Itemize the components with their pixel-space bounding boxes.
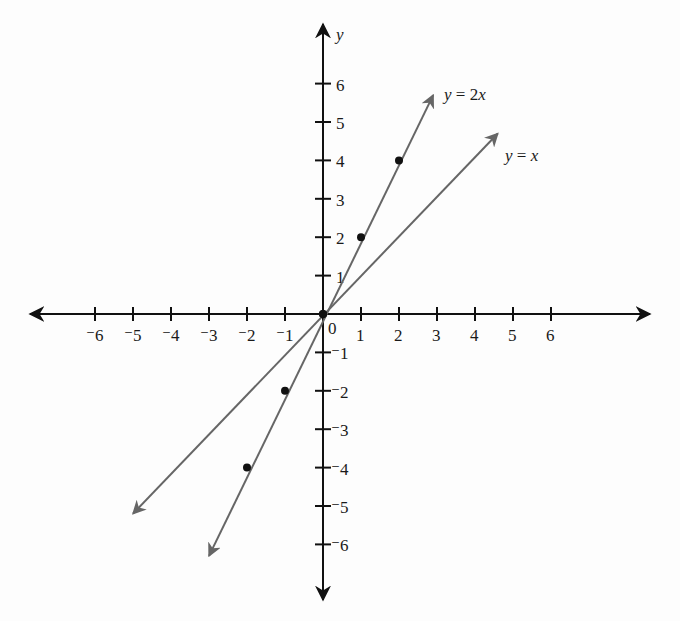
series-line-y-equals-x <box>133 134 498 514</box>
y-tick-label: ⁻5 <box>331 498 349 517</box>
legend-y-equals-2x: y = 2x <box>442 85 486 104</box>
x-tick-label: 4 <box>470 326 479 345</box>
data-point <box>243 464 251 472</box>
x-tick-label: ⁻6 <box>86 326 104 345</box>
y-tick-label: ⁻3 <box>331 421 349 440</box>
data-point <box>319 310 327 318</box>
x-tick-label: 1 <box>356 326 365 345</box>
y-tick-label: ⁻2 <box>331 383 349 402</box>
y-tick-label: 3 <box>336 191 345 210</box>
data-point <box>395 156 403 164</box>
y-tick-label: 2 <box>336 229 345 248</box>
y-tick-label: ⁻6 <box>331 536 349 555</box>
x-tick-label: ⁻3 <box>200 326 218 345</box>
legend-y-equals-x: y = x <box>503 146 539 165</box>
y-tick-label: 5 <box>336 114 345 133</box>
x-tick-label: ⁻4 <box>162 326 180 345</box>
x-tick-label: 2 <box>394 326 403 345</box>
data-point <box>281 387 289 395</box>
y-tick-label: ⁻4 <box>331 460 349 479</box>
coordinate-plane: ⁻6⁻5⁻4⁻3⁻2⁻1123456 ⁻6⁻5⁻4⁻3⁻2⁻1123456 y … <box>0 0 680 621</box>
x-tick-label: 3 <box>432 326 441 345</box>
y-tick-label: 1 <box>336 268 345 287</box>
x-tick-label: ⁻5 <box>124 326 142 345</box>
y-axis-label: y <box>334 25 344 44</box>
y-tick-label: ⁻1 <box>331 344 349 363</box>
x-tick-label: 5 <box>508 326 517 345</box>
x-tick-label: 6 <box>546 326 555 345</box>
y-tick-label: 6 <box>336 76 345 95</box>
origin-label: 0 <box>328 319 337 338</box>
x-tick-label: ⁻1 <box>276 326 294 345</box>
y-tick-label: 4 <box>336 152 345 171</box>
data-point <box>357 233 365 241</box>
series-lines <box>133 95 498 556</box>
x-tick-label: ⁻2 <box>238 326 256 345</box>
